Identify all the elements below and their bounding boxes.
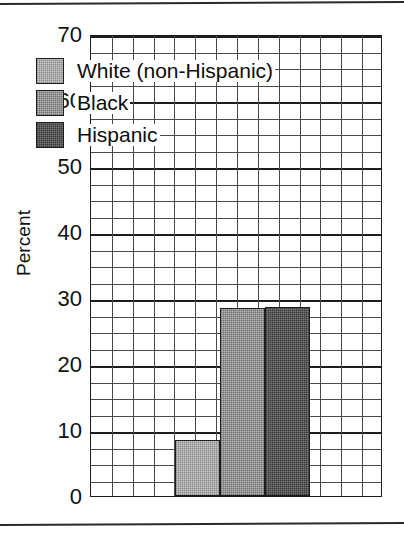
y-tick-label-0: 0 [26,486,82,508]
y-tick-label-30: 30 [26,288,82,310]
legend-label-black: Black [75,92,130,114]
dark-gray-swatch-icon [36,122,64,148]
light-gray-swatch-icon [36,58,64,84]
y-tick-label-40: 40 [26,222,82,244]
bar-hispanic [265,307,310,496]
y-tick-label-70: 70 [26,24,82,46]
bar-chart-figure: Percent 010203040506070 White (non-Hispa… [0,0,404,541]
legend-label-hispanic: Hispanic [75,124,160,146]
legend-entry-hispanic: Hispanic [36,119,275,151]
legend-entry-black: Black [36,87,275,119]
legend-entry-white: White (non-Hispanic) [36,55,275,87]
legend: White (non-Hispanic) Black Hispanic [36,55,275,151]
y-tick-label-20: 20 [26,354,82,376]
bar-white-non-hispanic [175,440,220,496]
bar-black [220,308,265,496]
legend-label-white: White (non-Hispanic) [75,60,275,82]
medium-gray-swatch-icon [36,90,64,116]
y-tick-label-50: 50 [26,156,82,178]
y-tick-label-10: 10 [26,420,82,442]
